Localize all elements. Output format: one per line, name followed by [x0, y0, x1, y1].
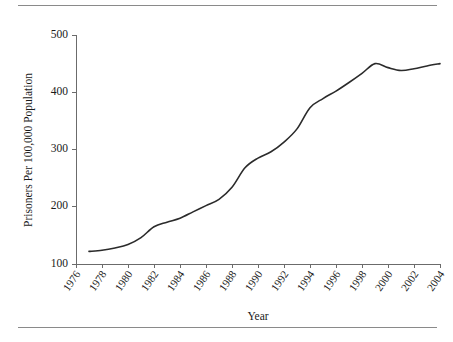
y-tick-label: 100	[51, 257, 69, 269]
x-tick-label: 2004	[424, 268, 447, 293]
series-line-prisoner-rate	[89, 63, 440, 251]
x-tick-labels: 1976197819801982198419861988199019921994…	[60, 268, 447, 293]
x-tick-label: 1996	[320, 268, 343, 293]
data-series	[89, 63, 440, 251]
y-tick-label: 300	[51, 142, 69, 154]
x-tick-label: 1994	[294, 268, 317, 293]
x-tick-label: 1998	[346, 268, 369, 293]
x-axis	[76, 264, 440, 268]
y-tick-label: 500	[51, 28, 69, 40]
chart-svg: 100200300400500 197619781980198219841986…	[0, 0, 453, 342]
line-chart: 100200300400500 197619781980198219841986…	[0, 0, 453, 342]
y-tick-label: 200	[51, 199, 69, 211]
y-tick-labels: 100200300400500	[51, 28, 69, 269]
x-tick-label: 1976	[60, 268, 83, 293]
y-axis-title: Prisoners Per 100,000 Population	[22, 73, 35, 227]
x-tick-label: 1992	[268, 268, 290, 293]
x-tick-label: 1986	[190, 268, 213, 293]
y-axis	[72, 35, 76, 264]
x-tick-label: 2002	[398, 268, 420, 293]
figure-container: 100200300400500 197619781980198219841986…	[0, 0, 453, 342]
x-tick-label: 1978	[86, 268, 109, 293]
x-tick-label: 1988	[216, 268, 239, 293]
x-tick-label: 1980	[112, 268, 135, 293]
x-tick-label: 1982	[138, 268, 160, 293]
x-axis-title: Year	[247, 310, 268, 322]
x-tick-label: 1990	[242, 268, 265, 293]
y-tick-label: 400	[51, 85, 69, 97]
x-tick-label: 1984	[164, 268, 187, 293]
x-tick-label: 2000	[372, 268, 395, 293]
